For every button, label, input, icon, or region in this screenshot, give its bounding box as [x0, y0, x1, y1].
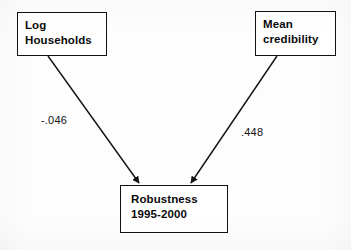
diagram-canvas: Log Households Mean credibility Robustne…: [0, 0, 351, 250]
node-robustness: Robustness 1995-2000: [120, 185, 228, 233]
node-mean-credibility-label: Mean credibility: [263, 17, 335, 46]
edge-weight-log-households: -.046: [41, 114, 67, 126]
node-robustness-label: Robustness 1995-2000: [131, 192, 227, 221]
edge-weight-mean-credibility: .448: [241, 126, 263, 138]
node-log-households: Log Households: [17, 12, 107, 56]
node-mean-credibility: Mean credibility: [255, 11, 336, 56]
node-log-households-label: Log Households: [25, 18, 106, 47]
edge-mean-credibility-to-robustness: [191, 56, 277, 183]
